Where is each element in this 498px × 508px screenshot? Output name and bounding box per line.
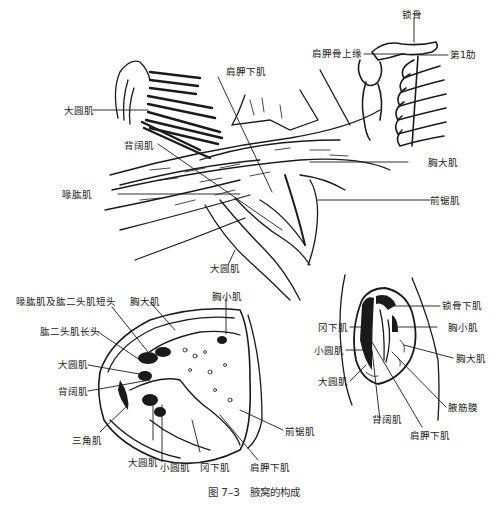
label-subscapularis-right: 肩胛下肌 — [410, 430, 450, 441]
label-first-rib: 第1肋 — [450, 49, 476, 60]
label-subclavius: 锁骨下肌 — [442, 300, 482, 311]
label-pectoralis-minor-right: 胸小肌 — [448, 322, 478, 333]
label-axillary-fascia: 腋筋膜 — [448, 402, 478, 413]
label-coracobrachialis-biceps-short: 喙肱肌及肱二头肌短头 — [16, 296, 116, 307]
label-clavicle: 锁骨 — [402, 9, 422, 20]
label-teres-minor-left: 小圆肌 — [160, 462, 190, 473]
label-subscapularis-left: 肩胛下肌 — [250, 462, 290, 473]
figure-caption: 图 7–3 腋窝的构成 — [208, 484, 300, 499]
axilla-dissection — [105, 61, 390, 300]
label-infraspinatus-right: 冈下肌 — [318, 322, 348, 333]
label-coracobrachialis-top: 喙肱肌 — [62, 189, 92, 200]
label-scapula-superior-border: 肩胛骨上缘 — [312, 48, 362, 59]
right-cross-section — [340, 275, 439, 420]
label-deltoid: 三角肌 — [72, 435, 102, 446]
label-infraspinatus-left: 冈下肌 — [200, 462, 230, 473]
label-pectoralis-major-top: 胸大肌 — [428, 157, 458, 168]
label-pectoralis-major-left: 胸大肌 — [130, 296, 160, 307]
label-latissimus-dorsi-left: 背阔肌 — [58, 386, 88, 397]
label-latissimus-dorsi-top: 背阔肌 — [124, 140, 154, 151]
label-teres-major-bottom: 大圆肌 — [128, 457, 158, 468]
label-serratus-anterior-top: 前锯肌 — [430, 195, 460, 206]
label-teres-minor-right: 小圆肌 — [314, 345, 344, 356]
label-teres-major-right: 大圆肌 — [318, 376, 348, 387]
label-serratus-anterior-left: 前锯肌 — [285, 426, 315, 437]
left-cross-section — [99, 309, 262, 464]
label-biceps-long: 肱二头肌长头 — [40, 326, 100, 337]
label-latissimus-dorsi-right: 背阔肌 — [372, 414, 402, 425]
label-subscapularis-top: 肩胛下肌 — [226, 66, 266, 77]
label-pectoralis-minor-left: 胸小肌 — [212, 291, 242, 302]
left-leader-lines — [88, 298, 283, 462]
skeleton-inset — [358, 42, 446, 146]
label-teres-major-left: 大圆肌 — [58, 359, 88, 370]
label-pectoralis-major-right: 胸大肌 — [456, 353, 486, 364]
label-teres-major-top: 大圆肌 — [64, 105, 94, 116]
label-teres-major-lower: 大圆肌 — [210, 263, 240, 274]
